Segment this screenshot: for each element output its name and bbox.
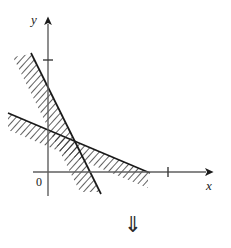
steep-band-boundary-line [31, 53, 101, 194]
y-axis-label: y [31, 13, 37, 26]
figure-root: y x 0 ⇓ [0, 0, 231, 248]
origin-label: 0 [36, 176, 42, 188]
x-axis-label: x [206, 179, 212, 192]
coordinate-plane-diagram [0, 0, 231, 248]
double-down-arrow-icon: ⇓ [123, 214, 143, 236]
